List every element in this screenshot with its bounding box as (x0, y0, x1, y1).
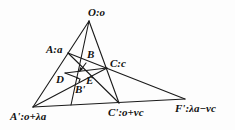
label-Ap: A':o+λa (10, 111, 46, 122)
label-B: B (87, 49, 94, 60)
label-C-text: C:c (110, 57, 126, 69)
label-E-text: E (86, 74, 93, 86)
label-C: C:c (110, 58, 126, 69)
diagram-canvas: O:o A:a B C:c D E B' A':o+λa C':o+νc F':… (0, 0, 235, 130)
line-D-C (65, 68, 107, 73)
line-D-E (65, 73, 78, 78)
label-D: D (56, 74, 64, 85)
label-Bp-text: B' (75, 83, 85, 95)
label-B-text: B (87, 48, 94, 60)
label-Fp-text: F':λa−νc (175, 102, 216, 114)
label-Bp: B' (75, 84, 85, 95)
label-D-text: D (56, 73, 64, 85)
label-A: A:a (46, 44, 63, 55)
right-angle-mark (77, 78, 80, 82)
label-O: O:o (88, 7, 105, 18)
label-Fp: F':λa−νc (175, 103, 216, 114)
label-O-text: O:o (88, 6, 105, 18)
label-Ap-text: A':o+λa (10, 110, 46, 122)
line-Ap-C (33, 68, 107, 107)
label-Cp-text: C':o+νc (108, 106, 144, 118)
label-E: E (86, 75, 93, 86)
label-Cp: C':o+νc (108, 107, 144, 118)
label-A-text: A:a (46, 43, 63, 55)
